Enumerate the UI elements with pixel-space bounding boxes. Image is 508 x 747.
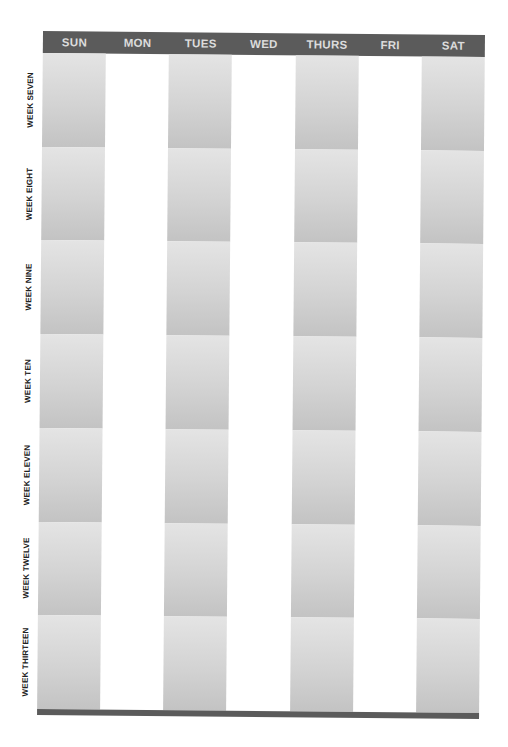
day-cell[interactable] [38,522,102,616]
column-mon [100,54,169,711]
day-cell[interactable] [40,241,104,335]
day-cell[interactable] [228,430,292,524]
day-cell[interactable] [41,147,105,241]
day-cell[interactable] [356,243,420,337]
day-cell[interactable] [230,242,294,336]
day-cell[interactable] [418,431,482,525]
day-cell[interactable] [353,618,417,712]
day-header-tues: TUES [169,32,232,55]
day-cell[interactable] [37,615,101,709]
day-cell[interactable] [104,241,168,335]
column-tues [163,54,232,711]
day-header-wed: WED [232,33,295,56]
day-cell[interactable] [42,53,106,147]
day-cell[interactable] [357,150,421,244]
week-label-nine: WEEK NINE [24,264,33,311]
day-header-fri: FRI [359,34,422,57]
day-cell[interactable] [100,616,164,710]
day-cell[interactable] [358,56,422,150]
day-cell[interactable] [231,55,295,149]
day-cell[interactable] [164,523,228,617]
day-cell[interactable] [231,148,295,242]
column-fri [353,56,422,713]
week-label-eleven: WEEK ELEVEN [22,444,32,505]
day-cell[interactable] [101,522,165,616]
day-cell[interactable] [291,430,355,524]
week-label-eight: WEEK EIGHT [24,167,33,220]
day-header-sun: SUN [43,31,106,54]
column-sun [37,53,106,710]
week-label-ten: WEEK TEN [23,359,32,403]
day-header-sat: SAT [422,34,485,57]
day-cell[interactable] [416,619,480,713]
day-cell[interactable] [102,428,166,522]
calendar-grid [37,53,485,713]
day-cell[interactable] [165,429,229,523]
day-cell[interactable] [290,618,354,712]
day-cell[interactable] [354,524,418,618]
day-cell[interactable] [417,525,481,619]
day-cell[interactable] [227,617,291,711]
day-cell[interactable] [227,523,291,617]
day-cell[interactable] [294,149,358,243]
day-cell[interactable] [419,244,483,338]
day-cell[interactable] [166,335,230,429]
day-cell[interactable] [163,616,227,710]
day-header-mon: MON [106,32,169,55]
day-cell[interactable] [104,147,168,241]
column-wed [227,55,296,712]
day-cell[interactable] [418,338,482,432]
column-sat [416,56,485,713]
week-label-seven: WEEK SEVEN [25,72,34,127]
day-cell[interactable] [292,336,356,430]
day-cell[interactable] [421,56,485,150]
day-cell[interactable] [39,428,103,522]
day-cell[interactable] [420,150,484,244]
day-cell[interactable] [293,243,357,337]
day-cell[interactable] [295,55,359,149]
day-cell[interactable] [355,337,419,431]
week-label-thirteen: WEEK THIRTEEN [20,628,30,697]
day-header-thurs: THURS [295,33,358,56]
week-label-twelve: WEEK TWELVE [21,538,31,599]
day-cell[interactable] [103,335,167,429]
day-cell[interactable] [290,524,354,618]
day-cell[interactable] [105,54,169,148]
day-cell[interactable] [168,54,232,148]
day-cell[interactable] [354,431,418,525]
day-cell[interactable] [229,336,293,430]
day-cell[interactable] [167,148,231,242]
day-cell[interactable] [167,242,231,336]
column-thurs [290,55,359,712]
day-cell[interactable] [40,334,104,428]
calendar-sheet: SUN MON TUES WED THURS FRI SAT WEEK SEVE… [0,0,508,747]
